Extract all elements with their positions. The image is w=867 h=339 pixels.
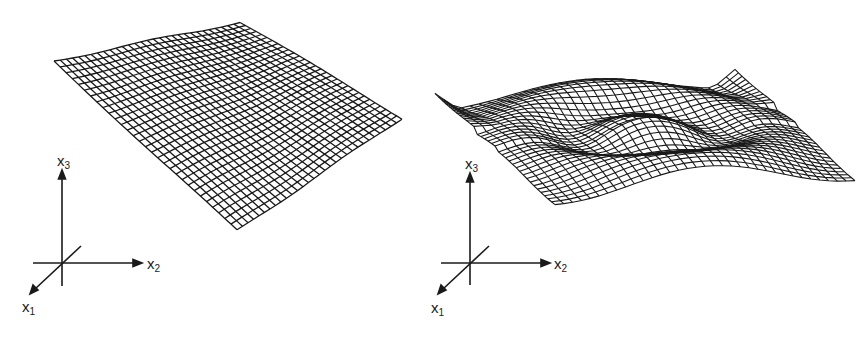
axis-label-x2: x2 bbox=[147, 256, 160, 274]
left-panel: x3 x2 x1 bbox=[0, 0, 430, 339]
right-panel: x3 x2 x1 bbox=[420, 0, 867, 339]
axis-label-x3: x3 bbox=[57, 153, 70, 171]
axis-label-x1: x1 bbox=[22, 299, 35, 317]
axis-label-x2: x2 bbox=[554, 256, 567, 274]
axis-triad-right bbox=[420, 0, 867, 339]
axis-label-x3: x3 bbox=[465, 156, 478, 174]
axis-label-x1: x1 bbox=[431, 300, 444, 318]
